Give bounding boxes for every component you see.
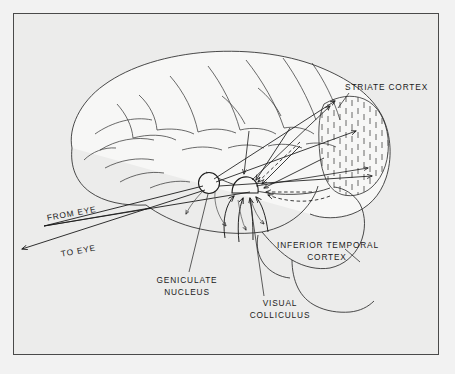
label-geniculate-nucleus-line1: GENICULATE [157,275,218,285]
label-visual-colliculus: VISUAL COLLICULUS [236,298,324,321]
label-geniculate-nucleus: GENICULATE NUCLEUS [139,275,235,298]
leader-geniculate [189,194,208,272]
label-visual-colliculus-line2: COLLICULUS [250,310,311,320]
brain-outline [71,51,390,218]
collicular-afferents [224,196,268,242]
label-inferior-temporal-cortex-line2: CORTEX [307,252,347,262]
label-inferior-temporal-cortex-line1: INFERIOR TEMPORAL [277,240,379,250]
label-geniculate-nucleus-line2: NUCLEUS [164,287,210,297]
label-striate-cortex: STRIATE CORTEX [345,82,428,94]
geniculate-nucleus-marker [199,173,220,194]
brain-diagram-illustration [0,0,455,374]
label-inferior-temporal-cortex: INFERIOR TEMPORAL CORTEX [277,240,377,263]
label-visual-colliculus-line1: VISUAL [263,298,298,308]
figure-page: STRIATE CORTEX INFERIOR TEMPORAL CORTEX … [0,0,455,374]
